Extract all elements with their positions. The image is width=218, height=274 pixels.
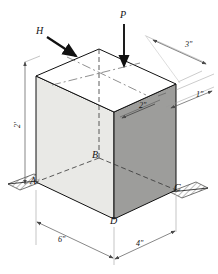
dimension-label-right-offset: 1" bbox=[196, 91, 203, 99]
dimension-label-top-right: 3" bbox=[185, 41, 192, 49]
force-h-arrow bbox=[47, 37, 76, 56]
point-label-b: B bbox=[92, 150, 98, 160]
point-label-c: C bbox=[174, 183, 181, 193]
figure-canvas: H P A B C D 2' 6" 4" 3" 1" 2" bbox=[0, 0, 218, 274]
dimension-label-bottom-right: 4" bbox=[136, 240, 143, 248]
force-label-h: H bbox=[36, 26, 43, 36]
dimension-label-height: 2' bbox=[14, 122, 22, 128]
force-label-p: P bbox=[120, 10, 126, 20]
dimension-label-face-offset: 2" bbox=[139, 102, 146, 110]
dimension-label-bottom-left: 6" bbox=[58, 236, 65, 244]
point-label-d: D bbox=[110, 216, 117, 226]
point-label-a: A bbox=[30, 176, 36, 186]
